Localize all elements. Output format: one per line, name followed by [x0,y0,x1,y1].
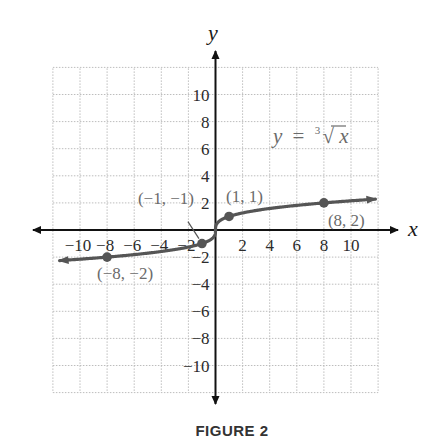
equation-label: y = 3 √ x [271,115,349,148]
y-tick-label: 4 [201,167,210,186]
y-tick-label: 6 [201,140,210,159]
point-label: (−8, −2) [97,264,153,283]
y-tick-label: −2 [191,248,209,267]
data-point [197,239,207,249]
x-tick-label: −8 [96,236,114,255]
point-label: (−1, −1) [138,189,194,208]
x-tick-label: 10 [343,236,360,255]
equation-radicand: x [338,124,349,148]
figure-caption: FIGURE 2 [195,422,268,439]
y-tick-label: −6 [191,302,209,321]
point-label: (8, 2) [328,211,365,230]
x-axis-label: x [407,216,418,241]
y-tick-label: −8 [191,329,209,348]
x-tick-label: −6 [123,236,141,255]
x-tick-label: 6 [293,236,302,255]
data-point [102,252,112,262]
y-tick-label: 10 [193,86,210,105]
data-point [319,198,329,208]
cube-root-graph: −10−8−6−4−2246810108642−2−4−6−8−10 (−8, … [0,0,445,441]
x-tick-label: 8 [320,236,329,255]
x-tick-label: 4 [265,236,274,255]
data-point [224,212,234,222]
y-tick-label: −4 [191,275,210,294]
x-tick-label: −10 [65,236,92,255]
point-label: (1, 1) [226,187,263,206]
y-tick-label: −10 [183,357,210,376]
equation-lhs: y [271,124,283,148]
y-axis-label: y [206,20,218,45]
equation-radical-sign: √ [322,124,334,148]
y-tick-label: 8 [201,113,210,132]
x-tick-label: 2 [238,236,247,255]
equation-root-index: 3 [315,124,321,136]
y-tick-label: 2 [201,194,210,213]
equation-equals: = [293,124,305,148]
